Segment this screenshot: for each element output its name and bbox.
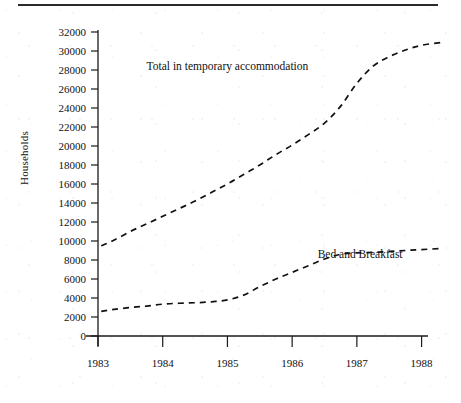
svg-text:1986: 1986: [281, 357, 304, 369]
svg-text:14000: 14000: [59, 197, 87, 209]
svg-text:1987: 1987: [346, 357, 369, 369]
svg-text:1985: 1985: [216, 357, 239, 369]
chart-series: [101, 42, 441, 311]
svg-text:Bed and Breakfast: Bed and Breakfast: [318, 248, 404, 260]
chart-axes: [86, 30, 428, 346]
svg-text:28000: 28000: [59, 64, 87, 76]
svg-text:0: 0: [81, 330, 87, 342]
svg-text:22000: 22000: [59, 121, 87, 133]
svg-text:4000: 4000: [64, 292, 87, 304]
x-axis-ticks: 198319841985198619871988: [87, 336, 433, 369]
svg-text:2000: 2000: [64, 311, 87, 323]
svg-text:6000: 6000: [64, 273, 87, 285]
svg-text:20000: 20000: [59, 140, 87, 152]
svg-text:Total in temporary accommodati: Total in temporary accommodation: [147, 60, 309, 73]
svg-text:16000: 16000: [59, 178, 87, 190]
svg-text:30000: 30000: [59, 45, 87, 57]
svg-text:1983: 1983: [87, 357, 110, 369]
y-axis-ticks: 0200040006000800010000120001400016000180…: [59, 26, 99, 342]
svg-text:10000: 10000: [59, 235, 87, 247]
chart-figure: Households 02000400060008000100001200014…: [0, 0, 461, 403]
svg-text:1988: 1988: [411, 357, 434, 369]
svg-text:18000: 18000: [59, 159, 87, 171]
svg-text:8000: 8000: [64, 254, 87, 266]
svg-text:32000: 32000: [59, 26, 87, 38]
series-annotations: Total in temporary accommodationBed and …: [147, 60, 404, 260]
svg-text:1984: 1984: [152, 357, 175, 369]
svg-text:24000: 24000: [59, 102, 87, 114]
svg-text:26000: 26000: [59, 83, 87, 95]
line-chart-plot: 0200040006000800010000120001400016000180…: [0, 0, 461, 403]
svg-text:12000: 12000: [59, 216, 87, 228]
